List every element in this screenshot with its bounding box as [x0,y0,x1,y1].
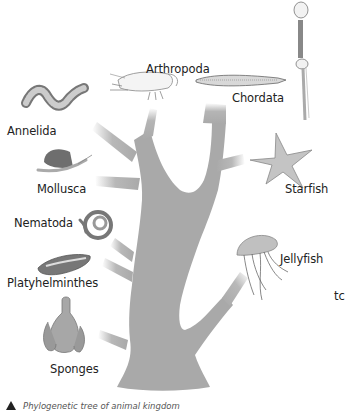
caption-text: Phylogenetic tree of animal kingdom [23,401,180,411]
sponges-illustration [44,297,85,353]
label-starfish: Starfish [285,182,328,196]
label-sponges: Sponges [50,362,99,376]
label-platyhelminthes: Platyhelminthes [7,276,98,290]
platyhelminthes-illustration [38,255,90,275]
label-nematoda: Nematoda [14,216,73,230]
label-jellyfish: Jellyfish [280,252,323,266]
starfish-illustration [250,133,312,188]
tree-trunk [117,120,233,391]
chordata-illustration [196,75,286,86]
label-mollusca: Mollusca [37,182,86,196]
phylogenetic-tree-figure: Arthropoda Chordata Annelida Mollusca St… [0,0,345,418]
label-chordata: Chordata [232,91,284,105]
human-skeleton-illustration [294,2,309,120]
triangle-marker-icon [6,401,16,410]
arthropoda-illustration [110,72,178,100]
nematoda-illustration [80,212,111,238]
label-annelida: Annelida [7,124,56,138]
figure-caption: Phylogenetic tree of animal kingdom [6,401,180,411]
label-arthropoda: Arthropoda [146,62,210,76]
jellyfish-illustration [237,235,288,300]
stray-text-fragment: tc [334,289,345,303]
mollusca-illustration [38,149,92,170]
annelida-illustration [26,88,84,106]
